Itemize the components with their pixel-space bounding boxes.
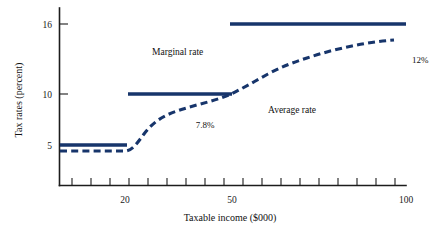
x-tick-label-100: 100 (399, 195, 414, 205)
axes-group (60, 8, 407, 186)
y-tick-label-5: 5 (47, 141, 52, 151)
x-tick-label-50: 50 (227, 195, 237, 205)
y-tick-label-10: 10 (43, 90, 53, 100)
chart-canvas: 16 10 5 20 50 100 (0, 0, 446, 229)
average-rate-value-7-8: 7.8% (196, 120, 215, 130)
y-tick-label-16: 16 (43, 20, 53, 30)
y-axis-title: Tax rates (percent) (13, 63, 25, 138)
average-rate-curve (60, 40, 394, 151)
x-axis-title: Taxable income ($000) (184, 212, 277, 224)
x-ticks-group: 20 50 100 (72, 178, 413, 205)
average-rate-label: Average rate (268, 105, 316, 115)
average-rate-value-12: 12% (412, 55, 429, 65)
average-rate-series (60, 40, 394, 151)
marginal-rate-series (60, 24, 406, 145)
marginal-rate-label: Marginal rate (152, 47, 203, 57)
tax-rates-chart: 16 10 5 20 50 100 (0, 0, 446, 229)
x-tick-label-20: 20 (120, 195, 130, 205)
y-ticks-group: 16 10 5 (43, 20, 69, 151)
